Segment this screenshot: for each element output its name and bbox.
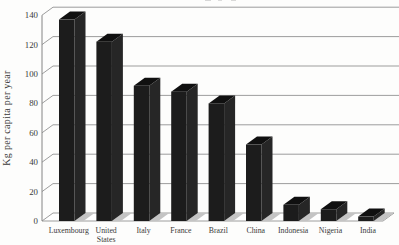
bar-side-face — [75, 12, 86, 221]
category-label: Indonesia — [278, 226, 309, 235]
gridline-connector — [42, 66, 53, 74]
y-tick-label: 40 — [29, 157, 38, 167]
y-tick-label: 140 — [25, 10, 39, 20]
y-axis-title: Kg per capita per year — [1, 70, 12, 166]
bar-chart-figure: 020406080100120140LuxembourgUnitedStates… — [0, 0, 399, 245]
bar-side-face — [112, 34, 123, 221]
category-label: France — [170, 226, 192, 235]
category-label: Italy — [136, 226, 150, 235]
cropped-title-remnant — [205, 0, 236, 1]
y-tick-label: 60 — [29, 128, 38, 138]
category-label: States — [97, 235, 116, 244]
y-tick-label: 100 — [25, 69, 39, 79]
category-label: Nigeria — [319, 226, 343, 235]
bars-group — [59, 12, 394, 221]
category-label: United — [96, 226, 117, 235]
gridline-connector — [42, 154, 53, 162]
gridline-connector — [42, 125, 53, 133]
bar — [321, 209, 337, 221]
category-label: China — [246, 226, 265, 235]
bar — [246, 145, 262, 221]
bar-side-face — [187, 84, 198, 221]
gridline-connector — [42, 184, 53, 192]
bar-side-face — [262, 137, 273, 221]
bar-side-face — [224, 95, 235, 221]
bar — [96, 42, 112, 221]
y-tick-label: 0 — [34, 216, 39, 226]
category-label: India — [360, 226, 377, 235]
bar — [283, 205, 299, 221]
bar — [209, 103, 225, 221]
bar — [358, 217, 374, 221]
bar-chart-svg: 020406080100120140LuxembourgUnitedStates… — [0, 0, 399, 245]
category-label: Luxembourg — [49, 226, 89, 235]
bar — [134, 86, 150, 221]
category-label: Brazil — [209, 226, 229, 235]
y-tick-label: 80 — [29, 98, 38, 108]
y-tick-label: 20 — [29, 187, 38, 197]
bar — [171, 92, 187, 221]
bar-side-face — [149, 78, 160, 221]
y-tick-label: 120 — [25, 40, 39, 50]
bar — [59, 20, 75, 221]
gridline-connector — [42, 7, 53, 15]
gridline-connector — [42, 37, 53, 45]
gridline-connector — [42, 95, 53, 103]
